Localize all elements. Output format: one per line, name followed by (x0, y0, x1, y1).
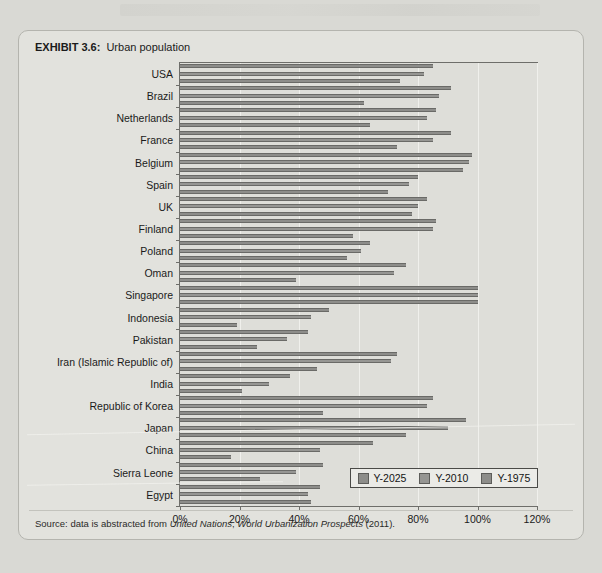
bar-y-2010 (180, 337, 287, 341)
bar-y-1975 (180, 323, 237, 327)
category-label: Belgium (135, 157, 173, 169)
chart-row: Singapore (180, 284, 537, 306)
bar-y-1975 (180, 411, 323, 415)
bar-y-2010 (180, 204, 418, 208)
chart-plot-area: USABrazilNetherlandsFranceBelgiumSpainUK… (179, 62, 538, 507)
bar-y-1975 (180, 278, 296, 282)
chart-row: Spain (180, 174, 537, 196)
source-divider (29, 510, 573, 511)
bar-y-2010 (180, 182, 409, 186)
category-label: Indonesia (127, 312, 173, 324)
category-label: Netherlands (116, 112, 173, 124)
chart-row: Poland (180, 240, 537, 262)
bar-y-1975 (180, 256, 347, 260)
legend-item[interactable]: Y-1975 (481, 472, 530, 484)
x-axis-tick-label: 120% (524, 513, 551, 525)
bar-y-2025 (180, 374, 290, 378)
chart-row: UK (180, 196, 537, 218)
category-label: Singapore (125, 289, 173, 301)
bar-y-2025 (180, 131, 451, 135)
bar-y-1975 (180, 145, 397, 149)
category-label: UK (158, 201, 173, 213)
bar-y-2010 (180, 271, 394, 275)
bar-y-2025 (180, 396, 433, 400)
bar-y-1975 (180, 234, 353, 238)
exhibit-header: EXHIBIT 3.6:Urban population (35, 41, 190, 53)
exhibit-number: EXHIBIT 3.6: (35, 41, 100, 53)
chart-row: Brazil (180, 85, 537, 107)
source-year: (2011). (363, 518, 395, 529)
legend-swatch-icon (358, 473, 369, 484)
bar-y-2025 (180, 286, 478, 290)
bar-y-2025 (180, 485, 320, 489)
legend-swatch-icon (481, 473, 492, 484)
bar-y-2010 (180, 293, 478, 297)
category-label: Sierra Leone (113, 467, 173, 479)
chart-row: Indonesia (180, 307, 537, 329)
category-label: India (150, 378, 173, 390)
category-label: Finland (139, 223, 173, 235)
bar-y-2025 (180, 352, 397, 356)
bar-y-1975 (180, 300, 478, 304)
chart-row: Finland (180, 218, 537, 240)
category-label: Poland (140, 245, 173, 257)
bar-y-2010 (180, 382, 269, 386)
chart-row: India (180, 373, 537, 395)
bar-y-2025 (180, 219, 436, 223)
category-label: Iran (Islamic Republic of) (57, 356, 173, 368)
bar-y-1975 (180, 79, 400, 83)
bar-y-2010 (180, 138, 433, 142)
bar-y-2025 (180, 175, 418, 179)
bar-rows: USABrazilNetherlandsFranceBelgiumSpainUK… (180, 63, 537, 506)
legend-item[interactable]: Y-2025 (358, 472, 407, 484)
chart-row: Republic of Korea (180, 395, 537, 417)
category-label: China (146, 444, 173, 456)
bar-y-2025 (180, 463, 323, 467)
exhibit-figure: EXHIBIT 3.6:Urban population USABrazilNe… (18, 30, 584, 540)
bar-y-2010 (180, 492, 308, 496)
bar-y-2025 (180, 263, 406, 267)
page-title: Urban population (106, 41, 190, 53)
chart-row: Japan (180, 417, 537, 439)
bar-y-2025 (180, 308, 329, 312)
chart-row: Belgium (180, 152, 537, 174)
source-note: Source: data is abstracted from United N… (35, 518, 395, 529)
legend-item[interactable]: Y-2010 (419, 472, 468, 484)
category-label: USA (151, 68, 173, 80)
category-label: Pakistan (133, 334, 173, 346)
x-axis-tick-label: 100% (464, 513, 491, 525)
category-label: Spain (146, 179, 173, 191)
category-label: France (140, 134, 173, 146)
chart-row: China (180, 439, 537, 461)
bar-y-2010 (180, 249, 361, 253)
chart-row: Pakistan (180, 329, 537, 351)
bar-y-2025 (180, 197, 427, 201)
bar-y-2025 (180, 108, 436, 112)
bar-y-2010 (180, 227, 433, 231)
bar-y-2010 (180, 470, 296, 474)
legend-label: Y-2025 (374, 472, 407, 484)
category-label: Egypt (146, 489, 173, 501)
bar-y-1975 (180, 345, 257, 349)
bar-y-2010 (180, 426, 448, 430)
source-work: World Urbanization Prospects (237, 518, 363, 529)
bar-y-1975 (180, 123, 370, 127)
bar-y-1975 (180, 500, 311, 504)
bar-y-2010 (180, 94, 439, 98)
source-prefix: Source: data is abstracted from (35, 518, 170, 529)
bar-y-1975 (180, 212, 412, 216)
bar-y-1975 (180, 433, 406, 437)
bar-y-2025 (180, 241, 370, 245)
bar-y-2010 (180, 315, 311, 319)
bar-y-1975 (180, 455, 231, 459)
bar-y-1975 (180, 168, 463, 172)
bar-y-2010 (180, 72, 424, 76)
category-label: Republic of Korea (90, 400, 173, 412)
bar-y-2010 (180, 116, 427, 120)
chart-row: Netherlands (180, 107, 537, 129)
bar-y-1975 (180, 190, 388, 194)
legend-label: Y-1975 (497, 472, 530, 484)
category-label: Brazil (147, 90, 173, 102)
bar-y-2025 (180, 330, 308, 334)
bar-y-2025 (180, 86, 451, 90)
